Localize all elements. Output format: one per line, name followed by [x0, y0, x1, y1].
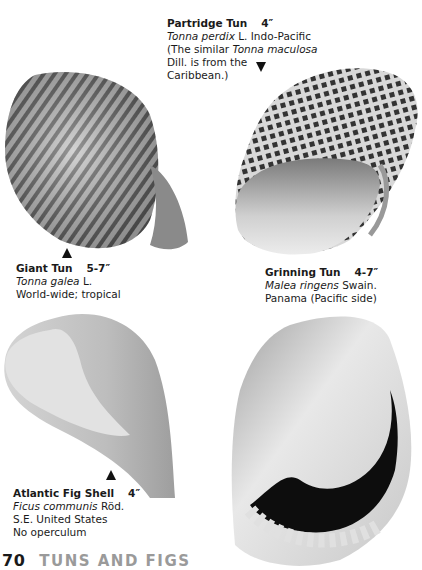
scientific-name: Ficus communis — [13, 500, 98, 512]
scientific-name: Malea ringens — [265, 279, 339, 291]
note-prefix: (The similar — [167, 43, 233, 55]
common-name: Grinning Tun — [265, 266, 341, 278]
size: 4″ — [128, 487, 140, 499]
common-name: Giant Tun — [16, 262, 72, 274]
range: Indo-Pacific — [251, 30, 311, 42]
partridge-tun-caption: Partridge Tun4″ Tonna perdix L. Indo-Pac… — [167, 17, 317, 82]
size: 4-7″ — [355, 266, 379, 278]
author: Röd. — [101, 500, 124, 512]
scientific-name: Tonna perdix — [167, 30, 235, 42]
partridge-tun-illustration — [230, 60, 422, 260]
up-arrow-icon — [106, 470, 116, 480]
grinning-tun-caption: Grinning Tun4-7″ Malea ringens Swain. Pa… — [265, 266, 378, 305]
page-number: 70 — [2, 551, 25, 570]
author: Swain. — [342, 279, 377, 291]
note-line2: Dill. is from the — [167, 56, 317, 69]
page-footer: 70TUNS AND FIGS — [2, 551, 191, 570]
fig-shell-caption: Atlantic Fig Shell4″ Ficus communis Röd.… — [13, 487, 140, 539]
range: S.E. United States — [13, 513, 140, 526]
range: World-wide; tropical — [16, 288, 121, 301]
note: No operculum — [13, 526, 140, 539]
giant-tun-illustration — [0, 70, 200, 260]
author: L. — [83, 275, 92, 287]
scientific-name: Tonna galea — [16, 275, 80, 287]
common-name: Atlantic Fig Shell — [13, 487, 114, 499]
grinning-tun-illustration — [230, 310, 422, 570]
size: 4″ — [261, 17, 273, 29]
range: Panama (Pacific side) — [265, 292, 378, 305]
author: L. — [238, 30, 247, 42]
down-arrow-icon — [256, 62, 266, 72]
section-title: TUNS AND FIGS — [39, 552, 190, 570]
size: 5-7″ — [86, 262, 110, 274]
note-line3: Caribbean.) — [167, 69, 317, 82]
similar-species: Tonna maculosa — [233, 43, 318, 55]
up-arrow-icon — [62, 248, 72, 258]
common-name: Partridge Tun — [167, 17, 247, 29]
giant-tun-caption: Giant Tun5-7″ Tonna galea L. World-wide;… — [16, 262, 121, 301]
fig-shell-illustration — [0, 300, 210, 500]
